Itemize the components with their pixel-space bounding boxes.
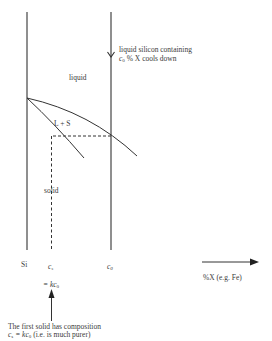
kc0-label: = kc0 <box>43 280 59 291</box>
region-liquid-label: liquid <box>69 73 87 82</box>
cooling-annotation-line1: liquid silicon containing <box>119 45 192 54</box>
cooling-rest: % X cools down <box>125 54 177 63</box>
kc0-prefix: = k <box>43 280 53 289</box>
first-solid-annotation-line2: cs = kc0 (i.e. is much purer) <box>8 330 90 341</box>
c0-label: c0 <box>107 262 113 273</box>
cs-sub: s <box>51 266 53 271</box>
cooling-annotation-line2: c0 % X cools down <box>119 54 177 65</box>
region-solid-label: solid <box>44 186 59 195</box>
region-two-phase-label: L + S <box>54 119 70 128</box>
si-label: Si <box>21 260 27 269</box>
kc0-sub: 0 <box>57 284 60 289</box>
x-axis-label: %X (e.g. Fe) <box>203 273 242 282</box>
right-arrow-icon <box>250 259 259 266</box>
cs-label: cs <box>48 262 53 273</box>
fs-rest: (i.e. is much purer) <box>31 330 90 339</box>
c0-marker-sub: 0 <box>110 266 113 271</box>
fs-eq: = k <box>13 330 25 339</box>
liquidus-curve <box>27 98 137 156</box>
solidus-curve <box>27 98 84 158</box>
